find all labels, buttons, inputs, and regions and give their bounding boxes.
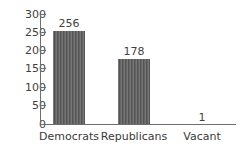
bar-value-democrats: 256 — [47, 18, 91, 29]
bar-value-vacant: 1 — [180, 112, 224, 123]
y-tick-mark-300 — [41, 14, 46, 15]
category-label-republicans: Republicans — [98, 130, 170, 143]
y-tick-mark-200 — [41, 50, 46, 51]
y-axis-line — [40, 14, 41, 125]
y-tick-mark-50 — [41, 105, 46, 106]
y-tick-mark-150 — [41, 68, 46, 69]
x-axis-line — [40, 124, 236, 125]
bar-republicans — [118, 59, 150, 124]
category-label-democrats: Democrats — [35, 130, 103, 143]
bar-chart: 300 250 200 150 100 50 0 256 178 1 Democ… — [0, 0, 243, 149]
y-tick-mark-100 — [41, 87, 46, 88]
y-tick-mark-250 — [41, 32, 46, 33]
bar-democrats — [53, 31, 85, 124]
bar-value-republicans: 178 — [112, 46, 156, 57]
category-label-vacant: Vacant — [178, 130, 226, 143]
